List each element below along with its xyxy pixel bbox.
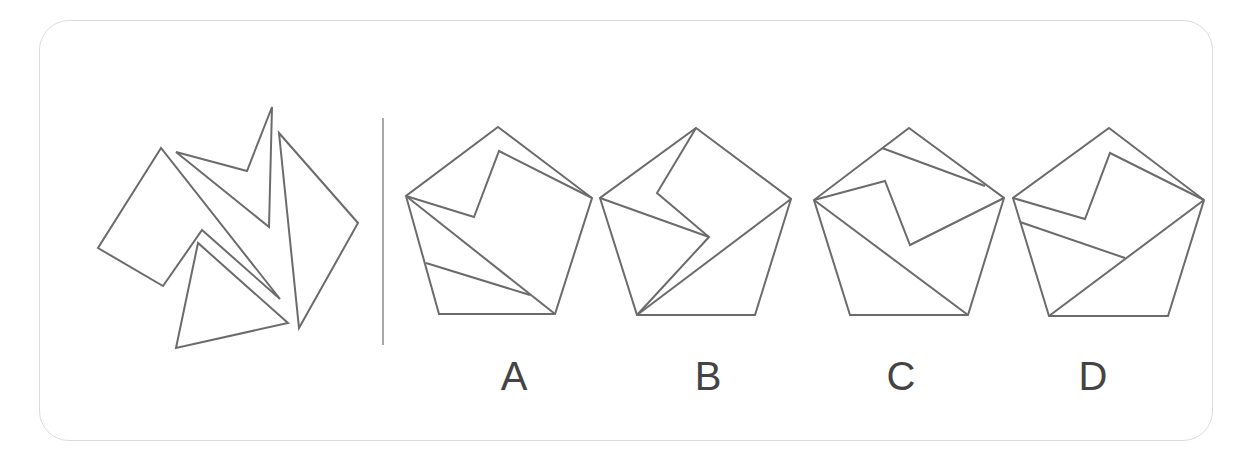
option-c-figure[interactable] bbox=[814, 128, 1004, 315]
option-b-figure[interactable] bbox=[600, 128, 791, 315]
piece-4 bbox=[279, 133, 358, 328]
option-a-line bbox=[406, 196, 555, 314]
piece-3 bbox=[176, 243, 288, 348]
option-d-line bbox=[1013, 153, 1204, 219]
option-a-line bbox=[406, 151, 592, 217]
option-b-label[interactable]: B bbox=[678, 356, 738, 396]
piece-2 bbox=[176, 107, 272, 227]
option-b-line bbox=[637, 199, 791, 315]
option-d-label[interactable]: D bbox=[1063, 356, 1123, 396]
option-a-line bbox=[426, 263, 530, 295]
option-c-label[interactable]: C bbox=[871, 356, 931, 396]
option-c-line bbox=[814, 200, 968, 315]
option-d-figure[interactable] bbox=[1013, 128, 1204, 316]
pieces-group bbox=[98, 107, 358, 348]
option-c-line bbox=[882, 148, 985, 186]
option-a-figure[interactable] bbox=[406, 127, 592, 314]
option-c-line bbox=[814, 181, 1004, 245]
option-d-line bbox=[1049, 200, 1204, 316]
option-a-label[interactable]: A bbox=[484, 356, 544, 396]
option-d-line bbox=[1020, 222, 1125, 258]
option-b-line bbox=[600, 198, 709, 237]
piece-1 bbox=[98, 148, 280, 299]
